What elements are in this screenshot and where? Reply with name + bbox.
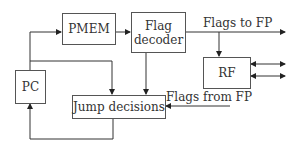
- pc-block: PC: [15, 70, 46, 104]
- rf-label: RF: [218, 66, 235, 80]
- jump-decisions-label: Jump decisions: [73, 100, 165, 114]
- pmem-label: PMEM: [68, 22, 109, 36]
- flags-from-fp-label: Flags from FP: [166, 90, 252, 104]
- jump-decisions-block: Jump decisions: [72, 95, 166, 119]
- flags-to-fp-label: Flags to FP: [203, 16, 272, 30]
- rf-block: RF: [203, 57, 251, 89]
- flag-decoder-block: Flag decoder: [131, 12, 186, 53]
- pmem-block: PMEM: [62, 13, 116, 45]
- flag-decoder-label-2: decoder: [134, 33, 183, 47]
- pc-label: PC: [22, 80, 39, 94]
- flag-decoder-label-1: Flag: [145, 19, 172, 33]
